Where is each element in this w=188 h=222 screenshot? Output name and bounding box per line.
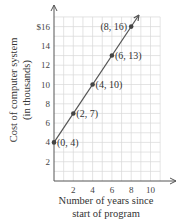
y-tick-label: 6	[46, 118, 51, 128]
y-tick-label: 8	[46, 99, 51, 109]
data-point	[129, 24, 134, 29]
x-tick-label: 8	[129, 185, 134, 195]
y-tick-label: 10	[41, 80, 51, 90]
y-axis-label: Cost of computer system	[8, 38, 19, 143]
y-tick-label: 12	[41, 60, 50, 70]
y-tick-label: 14	[41, 41, 51, 51]
data-point-label: (2, 7)	[76, 108, 98, 120]
data-point-label: (0, 4)	[57, 137, 79, 149]
x-tick-label: 10	[146, 185, 156, 195]
x-tick-label: 6	[110, 185, 115, 195]
x-axis-label: Number of years since	[59, 195, 154, 206]
y-tick-label: $16	[37, 22, 51, 32]
data-point-label: (4, 10)	[96, 79, 123, 91]
x-tick-label: 2	[71, 185, 76, 195]
x-axis-label: start of program	[72, 208, 140, 219]
data-point	[90, 82, 95, 87]
data-point-label: (8, 16)	[101, 21, 128, 33]
data-point	[52, 140, 57, 145]
data-point	[110, 53, 115, 58]
grid	[54, 17, 160, 181]
y-axis-label: (in thousands)	[21, 60, 33, 120]
y-tick-label: 2	[46, 157, 51, 167]
y-tick-label: 4	[46, 137, 51, 147]
data-point	[71, 111, 76, 116]
line-chart: 2468102468101214$16 (0, 4)(2, 7)(4, 10)(…	[0, 0, 188, 222]
data-series: (0, 4)(2, 7)(4, 10)(6, 13)(8, 16)	[52, 15, 142, 149]
x-tick-label: 4	[90, 185, 95, 195]
data-point-label: (6, 13)	[115, 50, 142, 62]
